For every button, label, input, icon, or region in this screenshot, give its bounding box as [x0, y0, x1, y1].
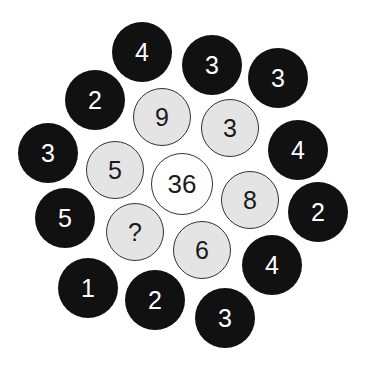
outer-circle: 3: [195, 288, 255, 348]
center-circle: 36: [151, 153, 213, 215]
inner-circle: 9: [133, 88, 191, 146]
inner-circle: 5: [86, 141, 144, 199]
unknown-circle: ?: [106, 203, 164, 261]
outer-circle: 3: [182, 35, 242, 95]
inner-circle: 6: [173, 221, 231, 279]
outer-circle: 2: [288, 182, 348, 242]
outer-circle: 4: [112, 22, 172, 82]
inner-circle: 3: [201, 99, 259, 157]
outer-circle: 4: [242, 235, 302, 295]
outer-circle: 5: [35, 188, 95, 248]
outer-circle: 4: [268, 120, 328, 180]
inner-circle: 8: [221, 171, 279, 229]
outer-circle: 1: [58, 258, 118, 318]
outer-circle: 2: [125, 270, 185, 330]
outer-circle: 3: [248, 48, 308, 108]
outer-circle: 3: [18, 123, 78, 183]
outer-circle: 2: [65, 70, 125, 130]
